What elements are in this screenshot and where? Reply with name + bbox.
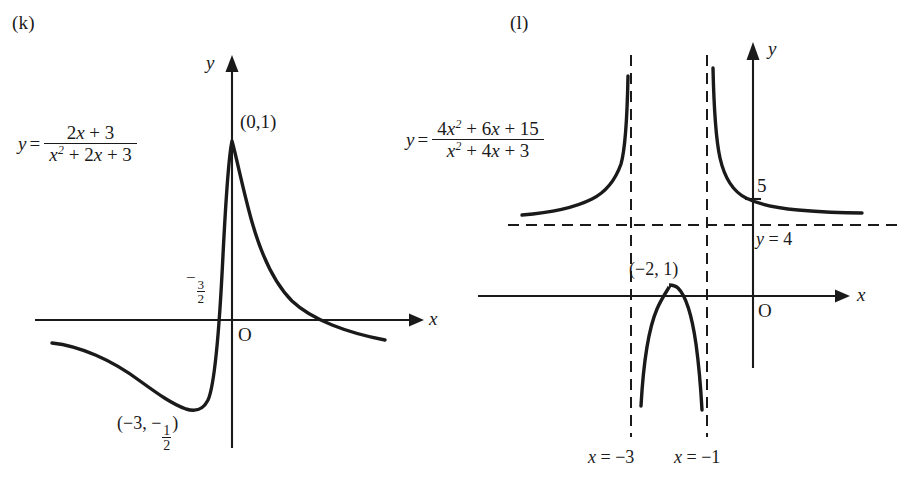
graph-k-y-axis-label: y — [206, 52, 214, 74]
figure-l: (l) y = 4x2 + 6x + 15 x2 + 4x + 3 — [458, 0, 916, 497]
graph-l-canvas — [458, 0, 916, 497]
graph-l-vertical-asymptote-left-label: x = −3 — [588, 448, 634, 467]
graph-k-curve — [52, 141, 385, 410]
figure-k: (k) y = 2x + 3 x2 + 2x + 3 (0,1) −32 O x… — [0, 0, 458, 497]
graph-l-y-axis-arrowhead — [747, 42, 760, 60]
equation-l-lhs: y — [406, 130, 414, 149]
graph-l-vertical-asymptote-right-label: x = −1 — [674, 448, 720, 467]
graph-l-left-branch — [522, 76, 628, 215]
graph-k-canvas — [0, 0, 458, 497]
graph-k-y-axis-arrowhead — [226, 55, 239, 72]
equation-l-equals: = — [417, 130, 428, 149]
graph-k-maximum-point-label: (0,1) — [240, 112, 276, 132]
graph-k-x-axis-arrowhead — [409, 314, 424, 327]
graph-l-middle-branch — [641, 285, 702, 410]
graph-l-y-axis-label: y — [768, 38, 776, 60]
graph-l-origin-label: O — [758, 300, 772, 322]
graph-l-y-intercept-label: 5 — [757, 176, 767, 196]
graph-k-x-intercept-label: −32 — [186, 269, 206, 306]
graph-l-horizontal-asymptote-label: y = 4 — [756, 230, 792, 249]
graph-l-x-axis-arrowhead — [835, 290, 850, 303]
graph-l-x-axis-label: x — [857, 284, 865, 306]
graph-k-minimum-point-label: (−3, −12) — [117, 414, 178, 453]
graph-k-x-axis-label: x — [429, 308, 437, 330]
graph-k-origin-label: O — [238, 324, 252, 346]
graph-l-local-maximum-label: (−2, 1) — [629, 260, 678, 279]
graph-l-right-branch — [713, 68, 862, 213]
